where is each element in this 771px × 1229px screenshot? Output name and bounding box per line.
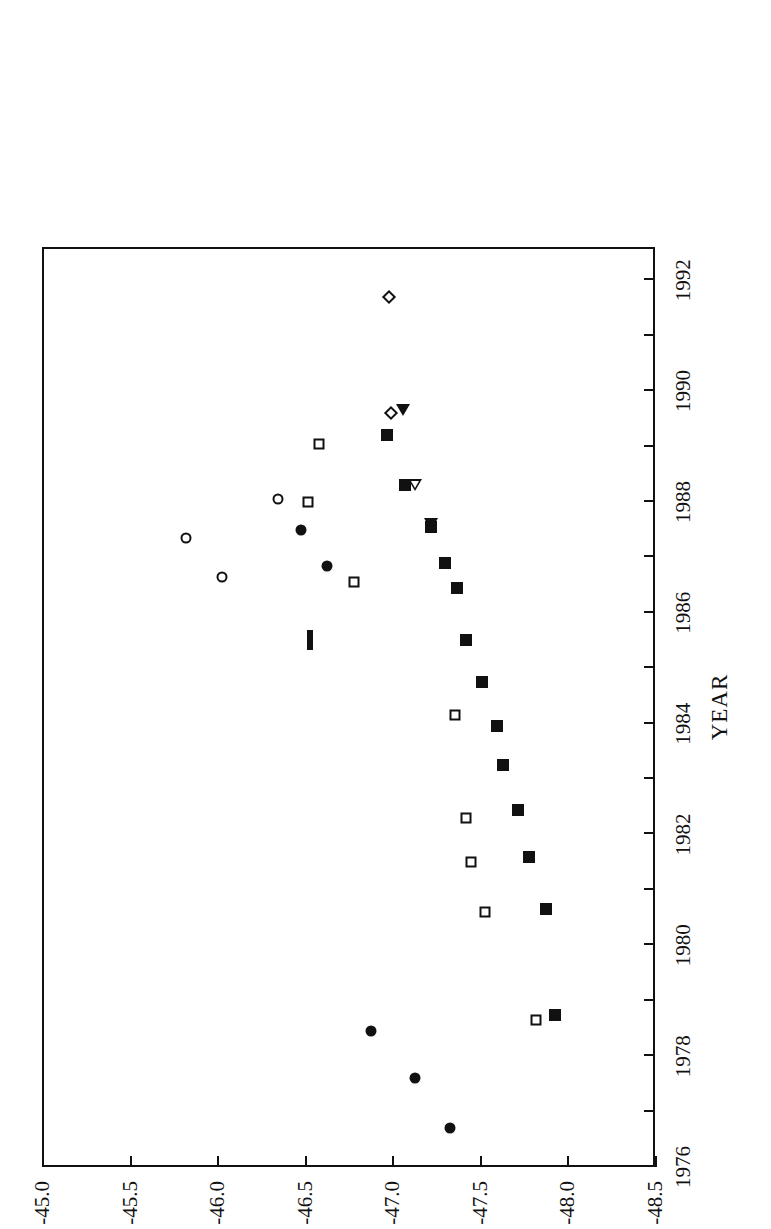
- x-tick-label-1992: 1992: [671, 259, 696, 301]
- y-tick-label--48.0: -48.0: [555, 1181, 580, 1225]
- data-point-filled-square: [460, 635, 472, 647]
- data-point-open-square: [466, 857, 477, 868]
- data-point-open-square: [348, 577, 359, 588]
- x-tick-1987: [644, 555, 655, 557]
- data-point-open-square: [303, 496, 314, 507]
- y-tick-label--46.0: -46.0: [205, 1181, 230, 1225]
- x-tick-1986: [644, 611, 655, 613]
- y-tick--47.5: [480, 1156, 482, 1167]
- x-tick-label-1978: 1978: [671, 1035, 696, 1077]
- data-point-open-square: [450, 710, 461, 721]
- x-tick-label-1980: 1980: [671, 924, 696, 966]
- y-tick--46.0: [217, 1156, 219, 1167]
- data-point-filled-square: [381, 429, 393, 441]
- x-tick-1991: [644, 334, 655, 336]
- x-tick-1981: [644, 888, 655, 890]
- y-tick--45.5: [130, 1156, 132, 1167]
- data-point-filled-square: [497, 759, 509, 771]
- y-tick-label--47.0: -47.0: [380, 1181, 405, 1225]
- x-tick-label-1976: 1976: [671, 1146, 696, 1188]
- y-tick--48.5: [655, 1156, 657, 1167]
- data-point-filled-square: [491, 720, 503, 732]
- data-point-filled-triangle-left: [396, 405, 410, 417]
- data-point-filled-circle: [296, 524, 307, 535]
- x-axis-line: [653, 247, 655, 1167]
- y-tick-label--45.5: -45.5: [117, 1181, 142, 1225]
- data-point-filled-square: [476, 676, 488, 688]
- data-point-dash: [307, 631, 313, 651]
- plot-frame-top: [42, 247, 44, 1167]
- data-point-filled-square: [540, 903, 552, 915]
- x-tick-label-1988: 1988: [671, 481, 696, 523]
- y-tick-label--46.5: -46.5: [292, 1181, 317, 1225]
- data-point-open-circle: [180, 532, 191, 543]
- data-point-filled-circle: [366, 1026, 377, 1037]
- data-point-filled-square: [512, 804, 524, 816]
- x-tick-1990: [644, 389, 655, 391]
- figure-canvas: 197619781980198219841986198819901992 -45…: [0, 0, 771, 1229]
- y-tick-label--48.5: -48.5: [643, 1181, 668, 1225]
- data-point-filled-square: [439, 557, 451, 569]
- y-axis-line: [42, 1165, 655, 1167]
- data-point-open-triangle-left: [408, 479, 422, 491]
- x-tick-1982: [644, 832, 655, 834]
- y-tick--46.5: [305, 1156, 307, 1167]
- y-tick--48.0: [567, 1156, 569, 1167]
- x-tick-1988: [644, 500, 655, 502]
- x-tick-label-1984: 1984: [671, 703, 696, 745]
- rotated-figure-group: 197619781980198219841986198819901992 -45…: [0, 0, 771, 1229]
- data-point-open-square: [530, 1015, 541, 1026]
- data-point-filled-square: [523, 851, 535, 863]
- data-point-filled-circle: [410, 1073, 421, 1084]
- x-tick-1992: [644, 278, 655, 280]
- x-tick-label-1990: 1990: [671, 370, 696, 412]
- data-point-open-square: [313, 438, 324, 449]
- data-point-open-diamond: [382, 290, 396, 304]
- x-tick-1989: [644, 445, 655, 447]
- x-tick-1979: [644, 999, 655, 1001]
- plot-area: [42, 247, 655, 1167]
- x-tick-1977: [644, 1110, 655, 1112]
- y-tick--45.0: [42, 1156, 44, 1167]
- data-point-filled-square: [549, 1009, 561, 1021]
- y-tick-label--45.0: -45.0: [30, 1181, 55, 1225]
- y-tick--47.0: [392, 1156, 394, 1167]
- plot-frame-right: [42, 247, 655, 249]
- x-tick-1985: [644, 666, 655, 668]
- data-markers: [42, 247, 56, 1167]
- x-tick-1984: [644, 722, 655, 724]
- y-tick-label--47.5: -47.5: [467, 1181, 492, 1225]
- data-point-open-square: [480, 907, 491, 918]
- x-tick-label-1982: 1982: [671, 813, 696, 855]
- data-point-filled-circle: [322, 560, 333, 571]
- x-tick-1983: [644, 777, 655, 779]
- data-point-filled-triangle-left: [424, 518, 438, 530]
- x-tick-1978: [644, 1054, 655, 1056]
- data-point-open-circle: [273, 494, 284, 505]
- x-tick-1976: [644, 1165, 655, 1167]
- x-axis-title: YEAR: [707, 674, 733, 741]
- data-point-filled-circle: [445, 1123, 456, 1134]
- x-tick-label-1986: 1986: [671, 592, 696, 634]
- data-point-open-circle: [217, 571, 228, 582]
- data-point-filled-square: [451, 582, 463, 594]
- data-point-open-square: [460, 812, 471, 823]
- x-tick-1980: [644, 943, 655, 945]
